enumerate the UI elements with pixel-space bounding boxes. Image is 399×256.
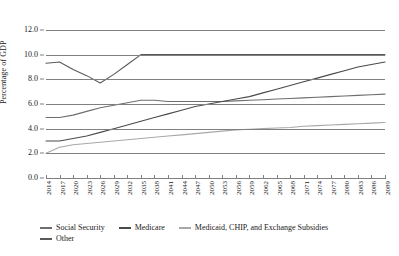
y-axis-ticks: 0.02.04.06.08.010.012.0 (0, 30, 44, 178)
x-tick-mark (263, 175, 264, 179)
legend-item[interactable]: Medicaid, CHIP, and Exchange Subsidies (179, 222, 328, 233)
x-tick-label: 2029 (114, 181, 121, 195)
chart-legend: Social SecurityMedicareMedicaid, CHIP, a… (40, 222, 390, 244)
x-tick-label: 2047 (195, 181, 202, 195)
y-tick-label: 2.0 (28, 149, 38, 157)
x-tick-label: 2077 (331, 181, 338, 195)
x-tick-mark (304, 175, 305, 179)
y-tick-mark (40, 153, 44, 154)
y-tick-mark (40, 79, 44, 80)
x-tick-label: 2020 (73, 181, 80, 195)
x-tick-mark (358, 175, 359, 179)
series-line (46, 123, 385, 154)
gridline (46, 30, 385, 31)
x-tick-label: 2083 (358, 181, 365, 195)
series-line (46, 94, 385, 117)
legend-item[interactable]: Medicare (119, 222, 165, 233)
x-tick-label: 2056 (236, 181, 243, 195)
gridline (46, 104, 385, 105)
legend-line-swatch-icon (179, 227, 191, 229)
x-tick-label: 2014 (46, 181, 53, 195)
x-tick-mark (73, 175, 74, 179)
x-tick-mark (60, 175, 61, 179)
x-tick-label: 2059 (249, 181, 256, 195)
x-tick-mark (236, 175, 237, 179)
x-axis-ticks: 2014201720202023202620292032203520382041… (46, 179, 385, 219)
y-tick-mark (40, 128, 44, 129)
x-tick-mark (87, 175, 88, 179)
x-tick-mark (331, 175, 332, 179)
y-tick-label: 12.0 (24, 26, 38, 34)
x-tick-label: 2062 (263, 181, 270, 195)
y-tick-mark (40, 104, 44, 105)
x-tick-label: 2038 (154, 181, 161, 195)
x-tick-mark (154, 175, 155, 179)
x-tick-mark (114, 175, 115, 179)
x-tick-mark (222, 175, 223, 179)
legend-label: Social Security (56, 222, 105, 233)
x-tick-mark (141, 175, 142, 179)
y-tick-label: 8.0 (28, 75, 38, 83)
legend-row: Social SecurityMedicareMedicaid, CHIP, a… (40, 222, 390, 233)
y-tick-mark (40, 30, 44, 31)
x-tick-label: 2053 (222, 181, 229, 195)
x-tick-mark (277, 175, 278, 179)
x-tick-mark (249, 175, 250, 179)
y-tick-label: 10.0 (24, 51, 38, 59)
x-tick-mark (290, 175, 291, 179)
x-tick-label: 2032 (127, 181, 134, 195)
y-tick-label: 0.0 (28, 174, 38, 182)
x-tick-mark (182, 175, 183, 179)
x-tick-label: 2089 (385, 181, 392, 195)
x-tick-mark (46, 175, 47, 179)
y-tick-mark (40, 178, 44, 179)
legend-label: Medicare (135, 222, 165, 233)
x-tick-mark (385, 175, 386, 179)
x-tick-mark (344, 175, 345, 179)
x-tick-mark (127, 175, 128, 179)
y-tick-mark (40, 54, 44, 55)
x-tick-mark (195, 175, 196, 179)
x-tick-mark (317, 175, 318, 179)
legend-label: Medicaid, CHIP, and Exchange Subsidies (195, 222, 328, 233)
legend-item[interactable]: Other (40, 233, 74, 244)
legend-row: Other (40, 233, 390, 244)
gridline (46, 79, 385, 80)
y-tick-label: 4.0 (28, 125, 38, 133)
x-tick-label: 2071 (304, 181, 311, 195)
plot-area (46, 30, 385, 178)
x-tick-mark (371, 175, 372, 179)
x-tick-label: 2044 (182, 181, 189, 195)
x-tick-label: 2050 (209, 181, 216, 195)
legend-label: Other (56, 233, 74, 244)
gridline (46, 129, 385, 130)
x-tick-label: 2017 (60, 181, 67, 195)
y-tick-label: 6.0 (28, 100, 38, 108)
chart-container: Percentage of GDP 0.02.04.06.08.010.012.… (0, 0, 399, 256)
x-tick-label: 2068 (290, 181, 297, 195)
legend-line-swatch-icon (40, 238, 52, 240)
x-tick-label: 2041 (168, 181, 175, 195)
x-tick-mark (100, 175, 101, 179)
x-tick-mark (209, 175, 210, 179)
x-tick-label: 2035 (141, 181, 148, 195)
legend-item[interactable]: Social Security (40, 222, 105, 233)
x-tick-label: 2065 (277, 181, 284, 195)
gridline (46, 153, 385, 154)
x-tick-label: 2074 (317, 181, 324, 195)
gridline (46, 55, 385, 56)
x-tick-label: 2026 (100, 181, 107, 195)
legend-line-swatch-icon (40, 227, 52, 229)
x-tick-label: 2086 (371, 181, 378, 195)
x-tick-mark (168, 175, 169, 179)
x-tick-label: 2080 (344, 181, 351, 195)
legend-line-swatch-icon (119, 227, 131, 229)
x-tick-label: 2023 (87, 181, 94, 195)
